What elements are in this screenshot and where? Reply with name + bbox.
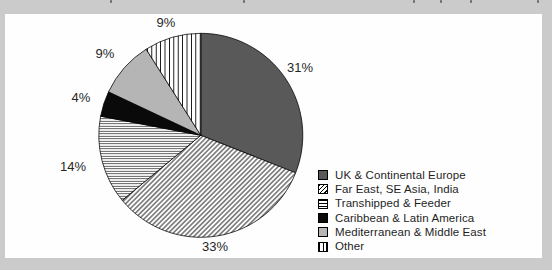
legend-label: Far East, SE Asia, India [335, 184, 459, 195]
legend-label: Mediterranean & Middle East [335, 227, 486, 238]
legend-item: Caribbean & Latin America [318, 211, 486, 225]
legend-swatch-horizontal-lines [318, 199, 328, 209]
pie-slice-percent-label: 31% [287, 60, 313, 75]
legend-swatch-solid-black [318, 213, 328, 223]
pie-slice-percent-label: 33% [202, 239, 228, 254]
legend-item: Other [318, 239, 486, 253]
legend-item: Mediterranean & Middle East [318, 225, 486, 239]
clipped-caption-fragment [110, 0, 112, 3]
legend-swatch-vertical-lines [318, 242, 328, 252]
clipped-caption-fragment [470, 0, 472, 3]
legend-label: Transhipped & Feeder [335, 198, 451, 209]
figure-page: 31%33%14%4%9%9% UK & Continental EuropeF… [0, 0, 552, 270]
legend-swatch-solid-light [318, 227, 328, 237]
clipped-caption-fragment [440, 0, 442, 3]
pie-slice-percent-label: 9% [157, 15, 176, 30]
clipped-caption-fragment [537, 0, 539, 3]
clipped-caption-fragment [243, 0, 245, 3]
legend-item: Far East, SE Asia, India [318, 182, 486, 196]
chart-legend: UK & Continental EuropeFar East, SE Asia… [318, 168, 486, 254]
clipped-caption-fragment [413, 0, 415, 3]
legend-swatch-diagonal-hatch [318, 184, 328, 194]
legend-label: UK & Continental Europe [335, 170, 466, 181]
legend-swatch-solid-dark [318, 170, 328, 180]
legend-item: Transhipped & Feeder [318, 197, 486, 211]
pie-slice-percent-label: 4% [72, 90, 91, 105]
pie-slice-percent-label: 14% [60, 159, 86, 174]
legend-label: Caribbean & Latin America [335, 213, 474, 224]
legend-item: UK & Continental Europe [318, 168, 486, 182]
legend-label: Other [335, 241, 364, 252]
pie-slice-percent-label: 9% [96, 46, 115, 61]
